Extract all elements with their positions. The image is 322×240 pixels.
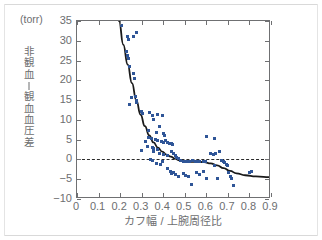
data-point <box>232 184 235 187</box>
figure-top-rule <box>4 4 318 5</box>
data-point <box>162 153 165 156</box>
data-point <box>213 164 216 167</box>
data-point <box>250 170 253 173</box>
data-point <box>132 35 135 38</box>
data-point <box>166 154 169 157</box>
x-tick-label: 0.7 <box>219 201 234 212</box>
data-point <box>230 177 233 180</box>
data-point <box>158 152 161 155</box>
y-axis-tick <box>77 159 81 160</box>
data-point <box>218 150 221 153</box>
y-tick-label: 15 <box>60 94 72 105</box>
figure-container: (torr) 非観血観血血圧差 −10−505101520253035 00.1… <box>0 0 322 240</box>
data-point <box>156 148 159 151</box>
data-point <box>127 57 130 60</box>
x-axis-tick <box>120 193 121 197</box>
x-tick-label: 0.5 <box>176 201 191 212</box>
y-tick-label: 20 <box>60 74 72 85</box>
data-point <box>156 113 159 116</box>
y-axis-tick <box>77 120 81 121</box>
data-point <box>156 139 159 142</box>
fitted-curve-path <box>119 21 269 177</box>
x-axis-tick-top <box>120 21 121 25</box>
data-point <box>198 173 201 176</box>
data-point <box>171 143 174 146</box>
y-tick-label: 5 <box>66 133 72 144</box>
x-tick-label: 0.6 <box>198 201 213 212</box>
y-tick-label: 0 <box>66 153 72 164</box>
x-axis-tick <box>185 193 186 197</box>
y-axis-tick <box>77 21 81 22</box>
data-point <box>150 137 153 140</box>
data-point <box>205 177 208 180</box>
data-point <box>155 131 158 134</box>
x-axis-title: カフ幅 / 上腕周径比 <box>76 215 270 227</box>
data-point <box>226 164 229 167</box>
y-tick-label: 30 <box>60 34 72 45</box>
data-point <box>135 31 138 34</box>
data-point <box>128 65 131 68</box>
y-tick-label: −5 <box>59 173 72 184</box>
x-axis-tick-top <box>271 21 272 25</box>
data-point <box>163 134 166 137</box>
data-point <box>127 38 130 41</box>
y-tick-label: 25 <box>60 54 72 65</box>
figure-bottom-rule <box>4 235 318 236</box>
figure-left-rule <box>4 4 5 236</box>
data-point <box>140 149 143 152</box>
x-axis-tick-top <box>163 21 164 25</box>
data-point <box>205 135 208 138</box>
x-axis-tick <box>206 193 207 197</box>
y-axis-tick-right <box>265 61 269 62</box>
data-point <box>144 140 147 143</box>
y-axis-tick-right <box>265 41 269 42</box>
data-point <box>132 72 135 75</box>
y-axis-tick-right <box>265 80 269 81</box>
x-axis-tick <box>77 193 78 197</box>
data-point <box>133 77 136 80</box>
data-point <box>214 152 217 155</box>
data-point <box>227 171 230 174</box>
data-point <box>141 112 144 115</box>
x-tick-label: 0.2 <box>111 201 126 212</box>
y-axis-tick-right <box>265 140 269 141</box>
data-point <box>146 145 149 148</box>
data-point <box>152 118 155 121</box>
data-point <box>125 50 128 53</box>
y-axis-tick <box>77 140 81 141</box>
x-axis-tick-top <box>99 21 100 25</box>
y-axis-tick <box>77 100 81 101</box>
x-axis-tick-top <box>142 21 143 25</box>
data-point <box>161 160 164 163</box>
x-axis-tick <box>228 193 229 197</box>
y-axis-tick-right <box>265 100 269 101</box>
plot-inner <box>77 21 269 197</box>
x-axis-tick-top <box>249 21 250 25</box>
data-point <box>161 114 164 117</box>
data-point <box>204 160 207 163</box>
x-axis-tick <box>163 193 164 197</box>
data-point <box>147 129 150 132</box>
y-axis-tick-right <box>265 21 269 22</box>
data-point <box>190 183 193 186</box>
y-tick-label: −10 <box>53 193 72 204</box>
data-point <box>187 175 190 178</box>
figure-right-rule <box>317 4 318 236</box>
x-axis-tick <box>249 193 250 197</box>
plot-area <box>76 20 270 198</box>
x-axis-tick-top <box>206 21 207 25</box>
x-axis-tick-top <box>185 21 186 25</box>
y-axis-tick <box>77 41 81 42</box>
data-point <box>155 162 158 165</box>
x-tick-label: 0.3 <box>133 201 148 212</box>
y-axis-tick-right <box>265 120 269 121</box>
y-axis-tick-right <box>265 179 269 180</box>
x-axis-tick <box>99 193 100 197</box>
x-tick-label: 0.9 <box>262 201 277 212</box>
y-axis-tick <box>77 80 81 81</box>
data-point <box>213 137 216 140</box>
x-axis-tick-top <box>228 21 229 25</box>
data-point <box>202 170 205 173</box>
x-axis-tick <box>142 193 143 197</box>
y-axis-tick <box>77 179 81 180</box>
